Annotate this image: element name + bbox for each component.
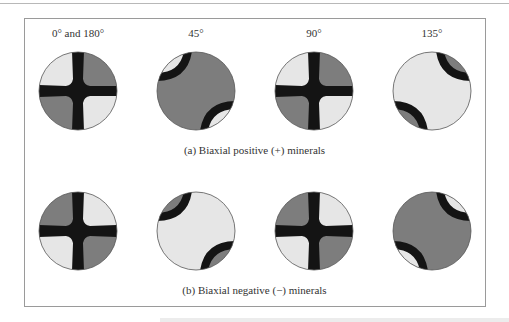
caption-negative: (b) Biaxial negative (−) minerals xyxy=(0,284,509,296)
panel-negative-135 xyxy=(392,191,472,271)
bottom-strip xyxy=(160,318,509,322)
panel-negative-90 xyxy=(274,191,354,271)
panel-positive-90 xyxy=(274,51,354,131)
interference-figures xyxy=(0,0,509,322)
panel-positive-45 xyxy=(156,51,236,131)
panel-negative-45 xyxy=(156,191,236,271)
caption-positive: (a) Biaxial positive (+) minerals xyxy=(0,144,509,156)
panel-positive-0-180 xyxy=(38,51,118,131)
panel-negative-0-180 xyxy=(38,191,118,271)
panel-positive-135 xyxy=(392,51,472,131)
